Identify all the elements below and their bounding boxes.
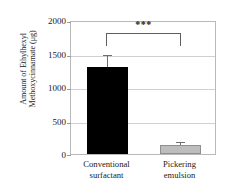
y-tickmark-500 xyxy=(67,123,71,124)
error-bar-cap-upper xyxy=(176,142,185,143)
significance-bracket xyxy=(106,33,181,46)
significance-bracket-leg-left xyxy=(106,33,107,46)
y-tickmark-0 xyxy=(67,155,71,156)
y-tick-label-2000: 2000 xyxy=(32,16,66,26)
error-bar-cap-upper xyxy=(103,55,112,56)
x-category-pickering-emulsion: Pickering emulsion xyxy=(143,159,216,191)
bar-conventional-surfactant xyxy=(87,67,128,154)
bar-chart-figure: Amount of Ethylhexyl Methoxycinnamate (μ… xyxy=(0,0,229,194)
y-axis-title-line-1: Amount of Ethylhexyl xyxy=(19,33,28,105)
y-tick-label-0: 0 xyxy=(32,150,66,160)
significance-stars: *** xyxy=(106,20,181,30)
error-bar-conventional-surfactant xyxy=(87,55,128,67)
y-tick-label-500: 500 xyxy=(32,117,66,127)
x-axis-category-labels: Conventional surfactant Pickering emulsi… xyxy=(70,159,216,191)
x-category-conventional-surfactant: Conventional surfactant xyxy=(70,159,143,191)
y-tickmark-2000 xyxy=(67,22,71,23)
x-category-line-2: surfactant xyxy=(70,170,143,181)
y-axis-tick-labels: 2000 1500 1000 500 0 xyxy=(32,0,66,194)
x-category-line-1: Pickering xyxy=(143,159,216,170)
x-category-line-1: Conventional xyxy=(70,159,143,170)
error-bar-pickering-emulsion xyxy=(160,142,201,145)
y-tickmark-1000 xyxy=(67,89,71,90)
x-category-line-2: emulsion xyxy=(143,170,216,181)
y-tickmark-1500 xyxy=(67,56,71,57)
y-tick-label-1000: 1000 xyxy=(32,83,66,93)
bar-pickering-emulsion xyxy=(160,145,201,154)
y-tick-label-1500: 1500 xyxy=(32,50,66,60)
significance-bracket-top xyxy=(106,33,181,34)
error-bar-stem xyxy=(107,55,108,67)
significance-bracket-leg-right xyxy=(180,33,181,46)
